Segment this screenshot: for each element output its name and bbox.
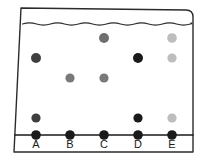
data-point-d-l2 — [133, 53, 143, 63]
data-point-d-l4 — [133, 113, 142, 122]
axis-label-a: A — [32, 138, 40, 150]
data-point-c-l1 — [99, 33, 109, 43]
data-point-c-l3 — [99, 73, 108, 82]
axis-label-e: E — [168, 138, 175, 150]
data-point-a-l4 — [31, 113, 40, 122]
data-point-e-l1 — [167, 33, 177, 43]
data-point-e-l4 — [167, 113, 176, 122]
diagram-canvas: ABCDE — [0, 0, 208, 160]
axis-label-c: C — [100, 138, 108, 150]
axis-label-b: B — [66, 138, 73, 150]
data-point-b-l3 — [65, 73, 74, 82]
data-point-a-l2 — [31, 53, 41, 63]
axis-label-d: D — [134, 138, 142, 150]
data-point-e-l2 — [167, 53, 176, 62]
container-diagram: ABCDE — [0, 0, 208, 160]
